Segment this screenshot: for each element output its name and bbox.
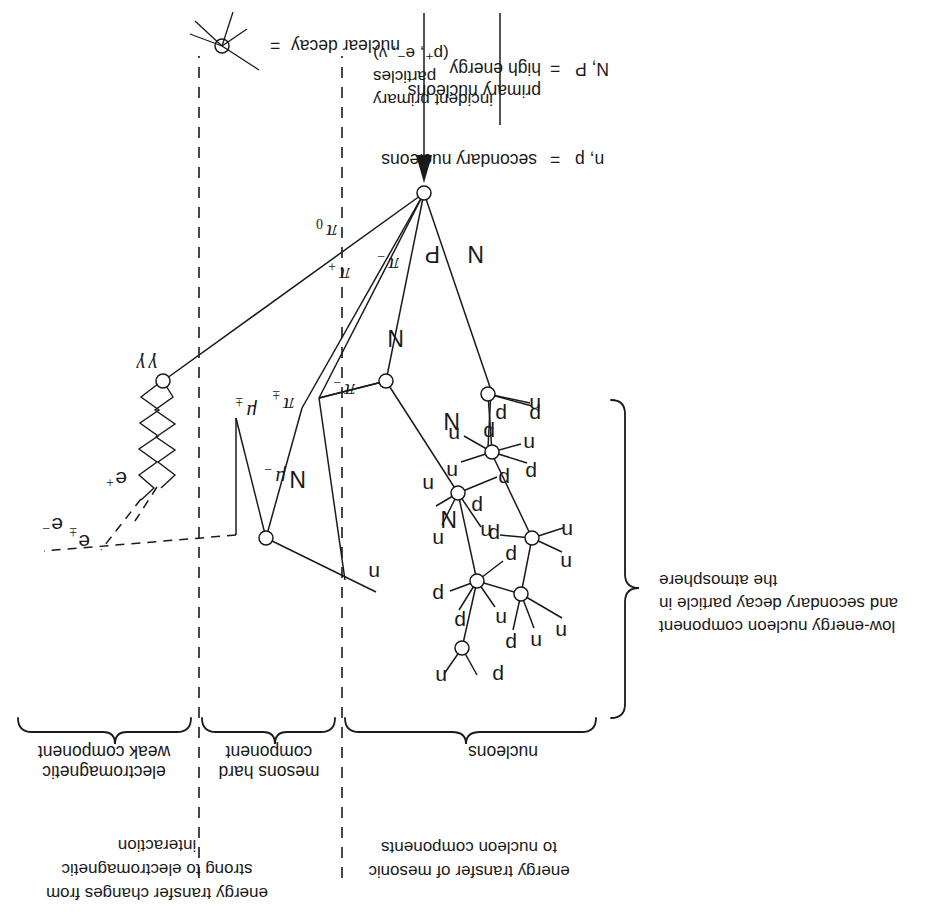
label-n: n <box>432 529 444 552</box>
bracket-label-mesons-2: component <box>226 742 313 762</box>
vertex-node <box>481 387 495 401</box>
label-n: n <box>560 552 572 575</box>
legend-0-symbol: N, P <box>575 59 609 79</box>
svg-text:π: π <box>339 263 350 287</box>
vertex-node <box>451 486 465 500</box>
label-p: p <box>492 665 504 688</box>
label-n: n <box>435 666 447 689</box>
label-p: p <box>495 404 507 427</box>
svg-text:e: e <box>51 514 63 537</box>
low-energy-line1: low-energy nucleon component <box>659 617 896 636</box>
svg-text:μ: μ <box>275 466 287 490</box>
legend-entry-secondary-nucleons: n, p = secondary nucleons <box>381 150 604 170</box>
label-e-pm: e ± <box>69 525 90 554</box>
transfer-em-line2: strong to electromagnetic <box>61 860 252 879</box>
label-n: n <box>529 394 541 417</box>
svg-text:π: π <box>388 253 399 277</box>
svg-text:N: N <box>289 466 306 492</box>
legend-entry-nuclear-decay: = nuclear decay <box>190 12 400 70</box>
legend-2-line1: nuclear decay <box>291 36 400 56</box>
figure-canvas: N P π − π + π 0 π − π ± <box>0 0 947 918</box>
transfer-meson-line2: to nucleon components <box>381 838 557 857</box>
vertex-node <box>525 531 539 545</box>
label-n: n <box>448 424 460 447</box>
vertex-first-interaction <box>417 186 431 200</box>
transfer-meson-line1: energy transfer of mesonic <box>368 862 570 881</box>
label-p: p <box>488 524 500 547</box>
vertex-node <box>379 374 393 388</box>
label-n: n <box>523 433 535 456</box>
label-pi-pm-upper: π ± <box>272 388 294 417</box>
column-brackets <box>18 718 596 744</box>
label-p: p <box>471 496 483 519</box>
label-N-primary: N <box>467 241 484 267</box>
svg-text:−: − <box>264 462 272 477</box>
bracket-label-mesons-1: mesons hard <box>218 762 319 782</box>
low-energy-brace <box>611 400 639 718</box>
label-P-primary: P <box>425 241 440 267</box>
svg-text:π: π <box>283 393 294 417</box>
legend-1-symbol: n, p <box>575 150 604 170</box>
svg-text:γ: γ <box>136 353 145 377</box>
label-p: p <box>498 468 510 491</box>
label-p: p <box>432 584 444 607</box>
legend-1-equals: = <box>550 150 560 170</box>
rotated-figure-group: N P π − π + π 0 π − π ± <box>0 0 947 918</box>
label-n: n <box>555 621 567 644</box>
svg-text:e: e <box>115 468 127 491</box>
label-n: n <box>446 461 458 484</box>
bracket-label-nucleons: nucleons <box>468 742 538 762</box>
legend-1-line1: secondary nucleons <box>381 150 537 170</box>
label-pi-minus-primary: π − <box>377 249 399 277</box>
svg-text:+: + <box>328 259 336 274</box>
legend-0-line1: high energy <box>449 59 541 79</box>
svg-text:±: ± <box>272 388 280 403</box>
legend-2-equals: = <box>270 36 280 56</box>
bracket-label-em-2: weak component <box>38 742 171 762</box>
vertex-node <box>470 574 484 588</box>
label-p: p <box>505 545 517 568</box>
legend-0-equals: = <box>550 59 560 79</box>
svg-text:±: ± <box>69 525 77 540</box>
label-n: n <box>495 608 507 631</box>
label-p: p <box>505 633 517 656</box>
svg-text:−: − <box>333 375 341 390</box>
shower-diagram-svg: N P π − π + π 0 π − π ± <box>0 0 947 918</box>
label-p: p <box>525 462 537 485</box>
transfer-em-line3: interaction <box>118 836 196 855</box>
legend-entry-primary-nucleons: N, P = high energy primary nucleons <box>408 59 610 101</box>
vertex-node <box>156 374 170 388</box>
label-e-plus: e + <box>106 468 127 491</box>
star-vertex-icon <box>190 12 259 70</box>
transfer-em-caption: energy transfer changes from strong to e… <box>46 836 268 903</box>
em-cascade <box>44 381 266 551</box>
svg-text:−: − <box>377 249 385 264</box>
bracket-label-em-1: electromagnetic <box>42 762 166 782</box>
vertex-node <box>259 531 273 545</box>
vertex-node <box>485 445 499 459</box>
label-n: n <box>422 474 434 497</box>
svg-text:γ: γ <box>148 353 157 377</box>
label-N-mu-minus: N μ − <box>264 462 306 492</box>
label-pi-zero-primary: π 0 <box>316 216 337 244</box>
svg-text:+: + <box>106 475 114 490</box>
transfer-meson-caption: energy transfer of mesonic to nucleon co… <box>368 838 570 881</box>
low-energy-caption: low-energy nucleon component and seconda… <box>659 571 898 636</box>
transfer-em-line1: energy transfer changes from <box>46 884 268 903</box>
label-p: p <box>454 611 466 634</box>
label-gamma-gamma: γ γ <box>136 353 157 377</box>
label-e-minus: e − <box>42 514 63 537</box>
svg-text:±: ± <box>235 395 243 410</box>
low-energy-line3: the atmosphere <box>659 571 777 590</box>
label-pi-middle: π − <box>333 375 355 403</box>
label-n-meson-zone: n <box>368 562 380 585</box>
legend-0-line2: primary nucleons <box>408 81 541 101</box>
svg-text:π: π <box>326 220 337 244</box>
svg-text:π: π <box>344 379 355 403</box>
vertex-node <box>514 587 528 601</box>
label-mu-pm: μ ± <box>235 395 258 424</box>
column-captions: nucleons mesons hard component electroma… <box>38 742 538 782</box>
label-n: n <box>530 631 542 654</box>
low-energy-line2: and secondary decay particle in <box>659 594 898 613</box>
label-pi-plus-primary: π + <box>328 259 350 287</box>
